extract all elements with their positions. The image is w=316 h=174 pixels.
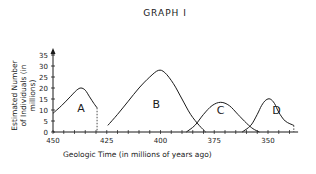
y-axis-arrow-icon: [51, 48, 56, 54]
curve-d: [242, 99, 294, 132]
y-tick-label: 30: [39, 63, 48, 71]
x-tick-label: 375: [208, 137, 221, 145]
x-tick-label: 425: [100, 137, 113, 145]
x-tick-label: 400: [154, 137, 167, 145]
x-tick-label: 450: [46, 137, 59, 145]
plot-area: 05101520253035450425400375350ABCD: [0, 0, 316, 174]
y-tick-label: 10: [39, 107, 48, 115]
curve-a: [53, 88, 97, 113]
chart-container: GRAPH I Estimated Number of Individuals …: [0, 0, 316, 174]
y-tick-label: 15: [39, 96, 48, 104]
curve-label-b: B: [152, 98, 160, 111]
curve-label-c: C: [217, 104, 225, 117]
curve-label-d: D: [272, 104, 280, 117]
curve-label-a: A: [77, 102, 85, 115]
y-tick-label: 20: [39, 85, 48, 93]
x-tick-label: 350: [261, 137, 274, 145]
y-tick-label: 25: [39, 74, 48, 82]
y-tick-label: 35: [39, 52, 48, 60]
y-tick-label: 0: [44, 129, 48, 137]
y-tick-label: 5: [44, 118, 48, 126]
